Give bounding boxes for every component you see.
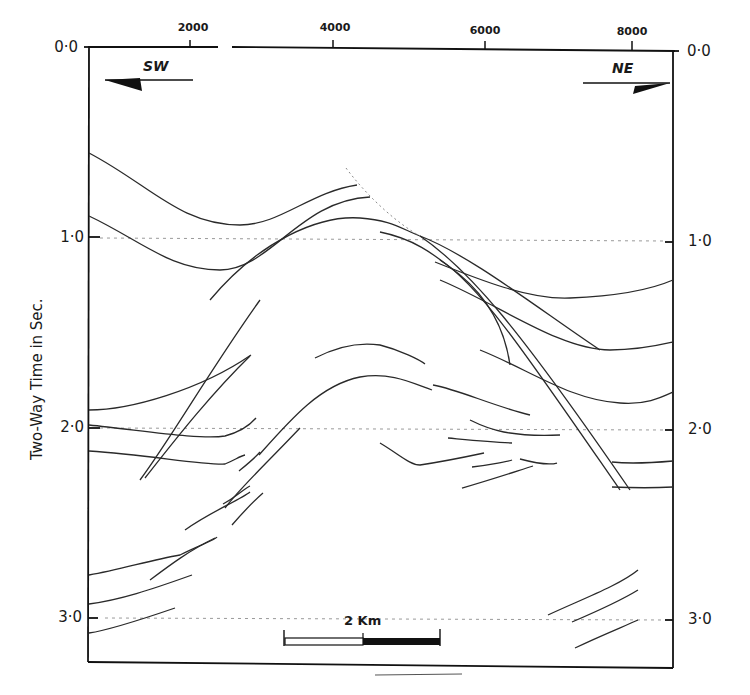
plot-frame [88,47,675,668]
x-tick-label: 2000 [178,21,209,34]
scale-bar [284,629,440,646]
sw-arrow-icon [105,78,193,91]
y-tick-label-left: 0·0 [38,38,78,56]
scale-bar-label: 2 Km [344,613,381,628]
y-tick-label-right: 3·0 [688,610,712,628]
y-tick-label-left: 1·0 [44,228,84,246]
y-tick-label-left: 2·0 [44,418,84,436]
x-tick-label: 4000 [320,21,351,34]
y-tick-label-right: 1·0 [688,232,712,250]
x-tick-label: 8000 [617,25,648,38]
direction-label-ne: NE [612,60,633,76]
y-tick-label-right: 0·0 [687,42,711,60]
ne-arrow-icon [583,83,670,94]
underline-mark [375,674,462,675]
seismic-horizons [89,153,673,648]
x-tick-label: 6000 [470,24,501,37]
direction-label-sw: SW [143,58,169,74]
seismic-section-figure: 2000 4000 6000 8000 0·0 1·0 2·0 3·0 0·0 … [0,0,750,695]
inferred-fault-trace [346,168,420,236]
section-plot [0,0,750,695]
y-axis-title: Two-Way Time in Sec. [28,298,46,460]
y-tick-label-left: 3·0 [42,608,82,626]
y-tick-label-right: 2·0 [688,420,712,438]
y-axis-ticks [84,47,679,620]
